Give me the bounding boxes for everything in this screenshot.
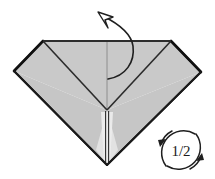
origami-figure-svg: 1/2 <box>0 0 215 179</box>
rotate-amount-label: 1/2 <box>171 143 190 159</box>
origami-diagram: 1/2 <box>0 0 215 179</box>
